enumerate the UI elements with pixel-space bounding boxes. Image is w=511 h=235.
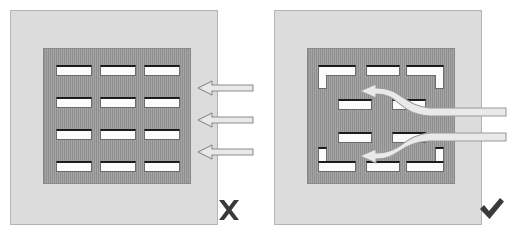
flow-arrow-upper xyxy=(360,84,506,116)
vent-slot xyxy=(366,65,400,76)
flow-arrow-top xyxy=(198,81,253,95)
flow-arrow-middle xyxy=(198,113,253,127)
vent-slot xyxy=(56,65,92,76)
vent-slot xyxy=(100,129,136,140)
airflow-arrows-correct xyxy=(356,82,511,172)
cross-mark-icon xyxy=(216,198,242,224)
panel-incorrect xyxy=(10,10,218,225)
vent-slot xyxy=(100,65,136,76)
vent-slot xyxy=(100,161,136,172)
vent-slot xyxy=(144,129,180,140)
vent-slot-leg xyxy=(318,75,327,89)
vent-slot xyxy=(100,97,136,108)
vent-slot-l-shaped xyxy=(318,161,356,172)
flow-arrow-lower xyxy=(360,133,506,163)
vent-slot xyxy=(144,161,180,172)
diagram-root: X xyxy=(0,0,511,235)
vent-slot xyxy=(144,97,180,108)
check-mark-icon xyxy=(478,196,506,224)
vent-slot xyxy=(56,97,92,108)
vent-plate-incorrect xyxy=(43,48,191,184)
airflow-arrows-incorrect xyxy=(196,78,256,168)
vent-slot xyxy=(56,161,92,172)
vent-slot xyxy=(56,129,92,140)
flow-arrow-bottom xyxy=(198,145,253,159)
vent-slot xyxy=(144,65,180,76)
